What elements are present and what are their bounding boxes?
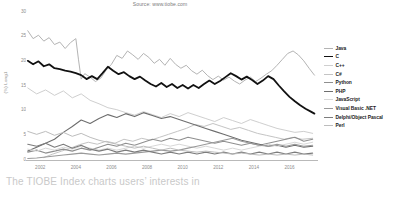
legend-label: Perl	[336, 123, 345, 128]
x-tick-label: 2008	[142, 165, 152, 170]
chart-source-label: Source: www.tiobe.com	[0, 1, 320, 7]
legend-item-cpp[interactable]: C++	[324, 61, 397, 70]
y-tick-label: 10	[8, 108, 26, 113]
legend-label: C++	[336, 63, 345, 68]
legend-swatch-perl	[324, 125, 333, 126]
x-tick-label: 2002	[35, 165, 45, 170]
y-tick-label: 20	[8, 59, 26, 64]
legend-label: C	[336, 54, 339, 59]
legend-item-perl[interactable]: Perl	[324, 121, 397, 130]
legend-label: Java	[336, 46, 347, 51]
series-line	[28, 31, 315, 84]
x-tick-label: 2010	[178, 165, 188, 170]
legend-label: Python	[336, 80, 352, 85]
legend-swatch-javascript	[324, 99, 333, 100]
legend-item-delphi[interactable]: Delphi/Object Pascal	[324, 113, 397, 122]
legend-item-java[interactable]: Java	[324, 44, 397, 53]
x-axis-line	[26, 160, 318, 161]
legend-item-python[interactable]: Python	[324, 78, 397, 87]
x-tick-label: 2016	[284, 165, 294, 170]
series-lines	[26, 12, 318, 160]
legend-swatch-java	[324, 48, 333, 49]
y-tick-label: 5	[8, 133, 26, 138]
legend-label: PHP	[336, 89, 346, 94]
legend-item-c[interactable]: C	[324, 53, 397, 62]
series-line	[28, 61, 315, 114]
x-tick-label: 2004	[71, 165, 81, 170]
plot-canvas	[26, 12, 318, 160]
legend-item-javascript[interactable]: JavaScript	[324, 96, 397, 105]
legend-label: Visual Basic .NET	[336, 106, 376, 111]
tiobe-chart-figure: Source: www.tiobe.com (%) Long1 30252015…	[0, 0, 397, 197]
y-axis-ticks: 302520151050	[0, 8, 26, 160]
y-tick-label: 15	[8, 84, 26, 89]
legend-swatch-csharp	[324, 74, 333, 75]
legend-label: Delphi/Object Pascal	[336, 115, 383, 120]
y-tick-label: 25	[8, 34, 26, 39]
series-line	[28, 142, 313, 151]
legend-item-php[interactable]: PHP	[324, 87, 397, 96]
x-tick-label: 2012	[213, 165, 223, 170]
x-tick-label: 2014	[249, 165, 259, 170]
legend-swatch-python	[324, 82, 333, 83]
series-line	[28, 88, 313, 133]
legend-label: C#	[336, 72, 342, 77]
legend-swatch-visualbasic	[324, 108, 333, 109]
legend-swatch-delphi	[324, 117, 333, 118]
legend-swatch-cpp	[324, 65, 333, 66]
legend-label: JavaScript	[336, 97, 360, 102]
legend-item-visualbasic[interactable]: Visual Basic .NET	[324, 104, 397, 113]
legend-swatch-php	[324, 91, 333, 92]
x-axis-ticks: 20022004200620082010201220142016	[26, 163, 318, 175]
legend-item-csharp[interactable]: C#	[324, 70, 397, 79]
chart-area: (%) Long1 302520151050 20022004200620082…	[0, 8, 397, 173]
y-tick-label: 0	[8, 158, 26, 163]
x-tick-label: 2006	[106, 165, 116, 170]
chart-legend: JavaCC++C#PythonPHPJavaScriptVisual Basi…	[324, 44, 397, 130]
legend-swatch-c	[324, 56, 333, 57]
y-tick-label: 30	[8, 10, 26, 15]
figure-caption: The TIOBE Index charts users’ interests …	[6, 176, 200, 187]
